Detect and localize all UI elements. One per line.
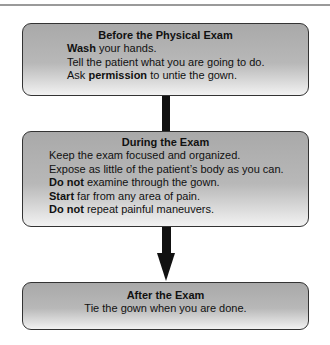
step-line: Keep the exam focused and organized. (49, 149, 308, 162)
connector-line (162, 96, 170, 131)
step-title: Before the Physical Exam (23, 29, 308, 42)
step-line: Ask permission to untie the gown. (67, 69, 308, 82)
step-line: Do not repeat painful maneuvers. (49, 203, 308, 216)
step-box-during-exam: During the Exam Keep the exam focused an… (22, 131, 309, 227)
step-line: Do not examine through the gown. (49, 176, 308, 189)
step-title: During the Exam (23, 136, 308, 149)
step-box-after-exam: After the Exam Tie the gown when you are… (22, 282, 309, 330)
step-line: Wash your hands. (67, 42, 308, 55)
arrow-down-icon (157, 253, 175, 281)
step-line: Start far from any area of pain. (49, 190, 308, 203)
step-title: After the Exam (23, 289, 308, 302)
step-line: Expose as little of the patient’s body a… (49, 163, 308, 176)
step-line: Tie the gown when you are done. (23, 302, 308, 315)
top-divider-rule (0, 4, 330, 6)
arrow-shaft (162, 227, 171, 254)
step-box-before-exam: Before the Physical Exam Wash your hands… (22, 23, 309, 96)
step-line: Tell the patient what you are going to d… (67, 56, 308, 69)
